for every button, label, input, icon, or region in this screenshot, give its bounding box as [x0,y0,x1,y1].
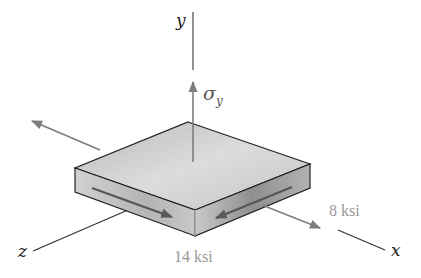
z-axis-line [33,210,128,251]
z-axis-label: z [17,241,28,261]
stress-element-diagram: y z σy x 8 ksi 14 ksi [0,0,421,278]
back-arrow [32,121,100,150]
sigma-y-label: σy [203,82,223,108]
shear-stress-label-14ksi: 14 ksi [174,248,213,265]
x-axis-line [338,230,385,250]
x-axis-label: x [391,240,401,260]
y-axis-label: y [175,10,186,30]
x-stress-arrow [262,205,320,228]
shear-stress-label-8ksi: 8 ksi [329,202,360,219]
